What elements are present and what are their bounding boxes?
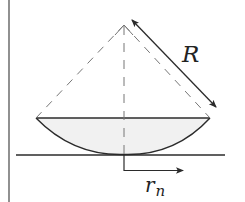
ring-radius-label: rn — [145, 173, 165, 200]
ring-radius-label-main: r — [145, 173, 156, 197]
radius-arrow — [132, 20, 216, 107]
left-radius-dashed-line — [36, 25, 124, 118]
ring-radius-label-subscript: n — [156, 182, 166, 200]
right-radius-dashed-line — [124, 25, 210, 118]
newtons-rings-diagram: R rn — [0, 0, 245, 202]
radius-label: R — [181, 41, 199, 67]
lens-body — [36, 118, 210, 155]
